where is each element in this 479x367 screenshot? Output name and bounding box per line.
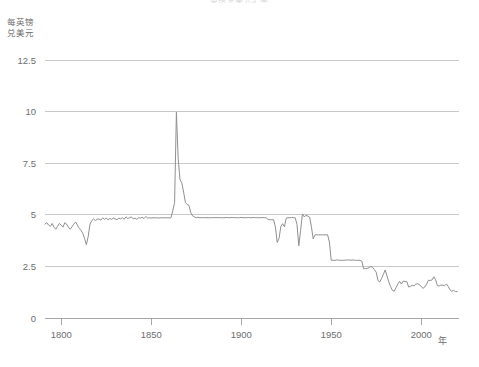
gridlines-group [45, 60, 459, 266]
x-axis-caption: 年 [438, 335, 447, 346]
y-tick-label: 0 [31, 313, 36, 324]
y-tick-label-group: 02.557.51012.5 [18, 55, 37, 324]
x-tick-label: 1900 [231, 329, 252, 340]
x-tick-label-group: 18001850190019502000 [51, 329, 432, 340]
y-tick-label: 5 [31, 209, 36, 220]
data-series-line [45, 112, 457, 291]
y-tick-label: 10 [25, 106, 36, 117]
y-tick-label: 7.5 [23, 158, 36, 169]
chart-container: 英镑兑美元汇率 每英镑 兑美元 02.557.51012.5 180018501… [0, 0, 479, 367]
y-tick-label: 2.5 [23, 261, 36, 272]
x-tick-label: 1950 [321, 329, 342, 340]
x-tick-label: 1850 [141, 329, 162, 340]
x-tick-label: 2000 [411, 329, 432, 340]
chart-plot-area: 02.557.51012.5 18001850190019502000 年 [0, 0, 479, 367]
x-tick-label: 1800 [51, 329, 72, 340]
y-tick-label: 12.5 [18, 55, 37, 66]
x-axis-group [45, 318, 459, 325]
